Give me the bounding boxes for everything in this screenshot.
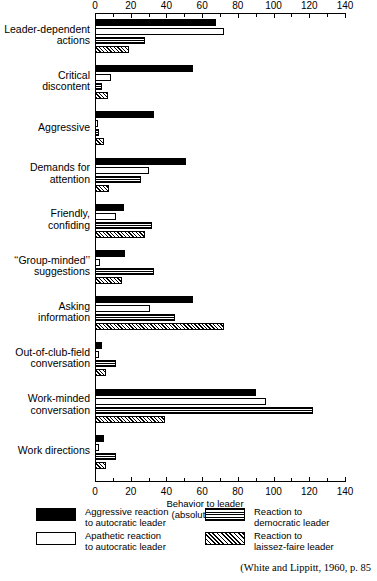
x-tick-100 [274,14,275,18]
bar [95,204,124,211]
category-label: Asking information [38,301,90,324]
x-tick-label-0: 0 [92,486,98,497]
x-tick-label-40: 40 [161,486,172,497]
x-tick-label-80: 80 [232,0,243,11]
bar [95,158,186,165]
x-tick-110 [291,478,292,481]
x-tick-label-100: 100 [265,486,282,497]
x-tick-label-60: 60 [197,0,208,11]
bar [95,416,165,423]
bar [95,65,193,72]
x-tick-60 [202,477,203,481]
bar [95,259,100,266]
bar [95,138,104,145]
legend-swatch-black [36,508,76,521]
bar [95,351,99,358]
bar-chart: 020406080100120140 Leader-dependent acti… [0,0,377,581]
x-tick-40 [166,14,167,18]
bar [95,74,111,81]
bar [95,167,149,174]
x-tick-50 [184,14,185,17]
bar [95,222,152,229]
bar [95,296,193,303]
category-label: Critical discontent [42,70,90,93]
legend-item: Reaction to democratic leader [205,507,330,528]
bar [95,277,122,284]
x-tick-label-140: 140 [337,486,354,497]
bar [95,111,154,118]
category-label: Demands for attention [30,162,90,185]
bar [95,444,99,451]
source-note: (White and Lippitt, 1960, p. 85 [0,562,371,573]
bar [95,323,224,330]
chart-legend: Aggressive reaction to autocratic leader… [0,503,377,555]
bar [95,19,216,26]
x-tick-20 [131,14,132,18]
x-tick-label-60: 60 [197,486,208,497]
legend-swatch-hatch [205,532,245,545]
bar [95,369,106,376]
category-label: ‘‘Group-minded’’ suggestions [14,255,90,278]
x-tick-50 [184,478,185,481]
x-tick-70 [220,478,221,481]
category-label: Work directions [18,445,90,457]
x-tick-60 [202,14,203,18]
x-tick-80 [238,477,239,481]
bar [95,453,116,460]
category-label: Work-minded conversation [28,393,90,416]
legend-item: Aggressive reaction to autocratic leader [36,507,168,528]
x-tick-80 [238,14,239,18]
x-tick-140 [345,477,346,481]
bar [95,37,145,44]
x-tick-130 [327,478,328,481]
x-tick-140 [345,14,346,18]
bar [95,360,116,367]
x-tick-10 [113,478,114,481]
x-tick-0 [95,477,96,481]
x-tick-120 [309,477,310,481]
bar [95,46,129,53]
bar [95,185,109,192]
category-label: Leader-dependent actions [4,24,90,47]
bar [95,83,102,90]
bar [95,231,145,238]
x-tick-label-20: 20 [125,0,136,11]
legend-item: Reaction to laissez-faire leader [205,531,334,552]
bar [95,407,313,414]
x-tick-label-0: 0 [92,0,98,11]
x-tick-100 [274,477,275,481]
bar [95,462,106,469]
category-label: Out-of-club-field conversation [15,347,90,370]
bar [95,120,98,127]
category-label: Aggressive [38,122,90,134]
bar [95,305,150,312]
bar [95,129,99,136]
x-tick-label-100: 100 [265,0,282,11]
bar [95,176,141,183]
category-label: Friendly, confiding [48,208,90,231]
x-tick-30 [149,478,150,481]
x-tick-70 [220,14,221,17]
x-tick-10 [113,14,114,17]
x-tick-120 [309,14,310,18]
bar [95,250,125,257]
bar [95,435,104,442]
bar [95,92,108,99]
x-tick-40 [166,477,167,481]
legend-swatch-white [36,532,76,545]
bar [95,213,116,220]
x-tick-110 [291,14,292,17]
x-tick-label-80: 80 [232,486,243,497]
legend-label: Aggressive reaction to autocratic leader [85,507,168,528]
x-tick-label-120: 120 [301,0,318,11]
x-axis-top-tick-labels: 020406080100120140 [0,0,377,14]
bar [95,314,175,321]
x-tick-label-40: 40 [161,0,172,11]
x-tick-30 [149,14,150,17]
x-tick-130 [327,14,328,17]
legend-label: Reaction to democratic leader [254,507,330,528]
legend-label: Reaction to laissez-faire leader [254,531,334,552]
x-tick-label-140: 140 [337,0,354,11]
legend-label: Apathetic reaction to autocratic leader [85,531,166,552]
x-tick-90 [256,478,257,481]
